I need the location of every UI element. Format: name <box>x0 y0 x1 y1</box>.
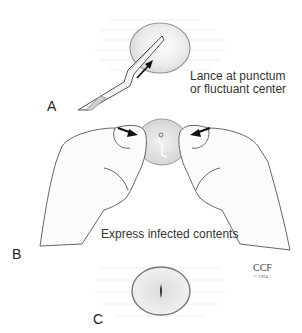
caption-b: Express infected contents <box>101 228 238 241</box>
illustration-canvas <box>0 0 302 333</box>
panel-label-c: C <box>93 311 103 327</box>
panel-a-illustration <box>78 20 225 110</box>
scalpel-icon <box>78 36 164 110</box>
panel-label-b: B <box>12 246 21 262</box>
panel-c-illustration <box>95 267 225 316</box>
caption-a-line2: or fluctuant center <box>190 83 286 96</box>
credit-org: CCF <box>253 262 272 273</box>
credit-year: © 1994 <box>253 274 268 279</box>
panel-label-a: A <box>47 98 56 114</box>
